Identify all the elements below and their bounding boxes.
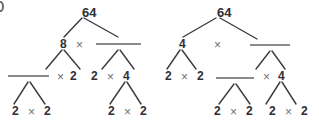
tree-branch	[182, 50, 196, 69]
factor-value: 2	[214, 105, 221, 117]
tree-branch	[282, 82, 296, 104]
multiplication-sign: ×	[230, 106, 237, 118]
factor-value: 2	[197, 70, 204, 82]
factor-tree-diagram: 648××22×42×22×2644×2×2×42×22×2	[0, 0, 319, 127]
factor-value: 2	[301, 105, 308, 117]
tree-branch	[120, 50, 134, 69]
factor-value: 2	[108, 105, 115, 117]
multiplication-sign: ×	[76, 39, 83, 51]
tree-branch	[46, 50, 62, 69]
factor-value: 2	[246, 105, 253, 117]
tree-branch	[127, 82, 141, 104]
multiplication-sign: ×	[263, 71, 270, 83]
multiplication-sign: ×	[57, 71, 64, 83]
multiplication-sign: ×	[124, 106, 131, 118]
tree-branch	[236, 84, 250, 104]
tree-branch	[102, 50, 118, 69]
factor-value: 2	[70, 70, 77, 82]
tree-branch	[183, 18, 216, 37]
factor-value: 8	[60, 38, 67, 50]
tree-branch	[256, 51, 270, 69]
tree-branch	[167, 50, 180, 69]
tree-branch	[64, 18, 82, 37]
factor-value: 4	[278, 70, 285, 82]
tree-branch	[14, 82, 28, 104]
factor-value: 2	[91, 70, 98, 82]
multiplication-sign: ×	[285, 106, 292, 118]
tree-branch	[84, 18, 118, 37]
factor-value: 4	[123, 70, 130, 82]
tree-branch	[30, 82, 45, 104]
multiplication-sign: ×	[214, 39, 221, 51]
factor-value: 4	[179, 38, 186, 50]
tree-branch	[110, 82, 125, 104]
factor-value: 2	[140, 105, 147, 117]
factor-value: 2	[44, 105, 51, 117]
factor-value: 2	[12, 105, 19, 117]
multiplication-sign: ×	[107, 71, 114, 83]
tree-branch	[266, 82, 280, 104]
multiplication-sign: ×	[181, 71, 188, 83]
factor-value: 2	[269, 105, 276, 117]
multiplication-sign: ×	[28, 106, 35, 118]
tree-branch	[219, 84, 234, 104]
tree-branch	[64, 50, 80, 69]
tree-branch	[272, 51, 285, 69]
factor-value: 64	[217, 6, 231, 19]
factor-value: 64	[82, 6, 96, 19]
tree-branch	[220, 18, 257, 39]
factor-value: 2	[165, 70, 172, 82]
